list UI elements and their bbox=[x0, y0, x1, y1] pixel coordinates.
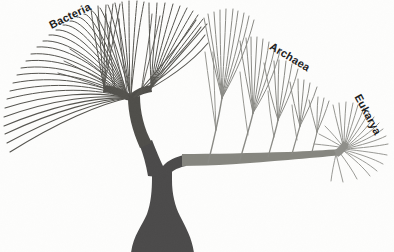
root-trunk bbox=[131, 170, 194, 252]
phylogenetic-tree-figure: Bacteria Archaea Eukarya bbox=[0, 0, 394, 252]
bacteria-stem bbox=[128, 96, 152, 148]
archaea-subclade-1 bbox=[204, 9, 254, 163]
archaea-subclade-5 bbox=[309, 97, 329, 152]
basal-split-node bbox=[140, 140, 186, 178]
eukarya-clade-group bbox=[314, 102, 388, 182]
archaea-eukarya-spine bbox=[182, 149, 340, 166]
archaea-clade-group bbox=[204, 9, 329, 163]
bacteria-tip-branches bbox=[4, 1, 208, 152]
archaea-eukarya-spine-group bbox=[182, 149, 340, 166]
archaea-subclade-2 bbox=[240, 37, 280, 160]
eukarya-tip-branches bbox=[314, 102, 388, 182]
archaea-subclade-3 bbox=[264, 60, 298, 157]
bacteria-clade-group bbox=[4, 1, 208, 152]
tree-diagram-svg bbox=[0, 0, 394, 252]
